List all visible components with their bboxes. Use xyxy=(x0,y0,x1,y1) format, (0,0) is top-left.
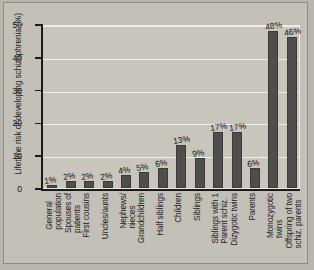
x-category-label: Parents xyxy=(249,193,258,221)
x-category-label: Half siblings xyxy=(157,193,166,236)
bar xyxy=(250,168,260,188)
x-category-label: Nephews/nieces xyxy=(120,193,137,229)
bar-value-label: 13% xyxy=(173,134,191,146)
y-tick-mark xyxy=(35,123,42,125)
x-category-label: Offspring of twoschiz. parents xyxy=(286,193,303,249)
bar-value-label: 5% xyxy=(136,161,150,173)
bar xyxy=(213,132,223,188)
bar xyxy=(66,181,76,188)
gridline xyxy=(43,59,299,60)
y-axis-line xyxy=(41,24,43,190)
x-category-label: Children xyxy=(175,193,184,223)
bar-value-label: 4% xyxy=(117,164,131,176)
bar xyxy=(84,181,94,188)
y-tick-label: 50 xyxy=(0,20,22,30)
bar xyxy=(121,175,131,188)
y-tick-mark xyxy=(35,155,42,157)
gridline xyxy=(43,124,299,125)
x-category-label: Generalpopulation xyxy=(46,193,63,230)
bar xyxy=(176,145,186,188)
gridline xyxy=(43,92,299,93)
y-tick-label: 40 xyxy=(0,53,22,63)
y-tick-label: 30 xyxy=(0,86,22,96)
bar xyxy=(195,158,205,188)
y-tick-mark xyxy=(35,188,42,190)
y-tick-label: 10 xyxy=(0,151,22,161)
bar-value-label: 1% xyxy=(44,174,58,186)
chart-figure: Lifetime risk of developing schizophreni… xyxy=(3,2,308,264)
x-category-label: Grandchildren xyxy=(138,193,147,243)
y-tick-label: 20 xyxy=(0,118,22,128)
x-category-label: Spouses ofpatients xyxy=(65,193,82,233)
bar xyxy=(103,181,113,188)
y-tick-label: 0 xyxy=(0,184,22,194)
bar-value-label: 48% xyxy=(265,19,283,31)
bar xyxy=(287,37,297,188)
gridline xyxy=(43,157,299,158)
gridline xyxy=(43,26,299,27)
x-category-label: First cousins xyxy=(83,193,92,238)
bar xyxy=(158,168,168,188)
bar-value-label: 17% xyxy=(228,121,246,133)
bar-value-label: 46% xyxy=(283,26,301,38)
bar-value-label: 17% xyxy=(209,121,227,133)
x-category-label: Siblings xyxy=(194,193,203,221)
y-tick-mark xyxy=(35,57,42,59)
y-tick-mark xyxy=(35,90,42,92)
bar xyxy=(139,172,149,188)
x-category-label: Uncles/aunts xyxy=(102,193,111,239)
x-axis-line xyxy=(41,189,300,191)
x-category-label: Monozygotictwins xyxy=(267,193,284,238)
x-category-label: Dizygotic twins xyxy=(231,193,240,246)
x-category-label: Siblings with 1Parent schiz. xyxy=(212,193,229,244)
bar xyxy=(232,132,242,188)
bar xyxy=(268,31,278,188)
y-tick-mark xyxy=(35,24,42,26)
plot-area: 1%2%2%2%4%5%6%13%9%17%17%6%48%46% xyxy=(42,25,300,189)
